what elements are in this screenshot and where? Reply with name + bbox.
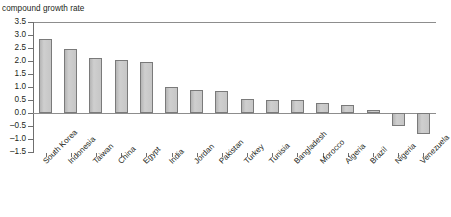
y-tick-label: –0.5 xyxy=(0,122,26,130)
category-label: Turkey xyxy=(243,143,266,166)
y-tick-label-text: –1.0 xyxy=(0,135,26,143)
bar xyxy=(215,91,228,113)
category-label: Egypt xyxy=(142,146,162,166)
y-tick-label: –1.0 xyxy=(0,135,26,143)
y-tick xyxy=(28,74,33,75)
bar xyxy=(39,39,52,113)
bar xyxy=(190,90,203,113)
y-tick xyxy=(28,100,33,101)
y-tick xyxy=(28,126,33,127)
category-label: India xyxy=(168,148,186,166)
y-tick-label: 1.0 xyxy=(0,83,26,91)
y-tick-label-text: 3.0 xyxy=(0,31,26,39)
y-tick xyxy=(28,152,33,153)
category-label: China xyxy=(117,145,137,165)
y-tick-label-text: –1.5 xyxy=(0,148,26,156)
bar xyxy=(115,60,128,113)
y-tick xyxy=(28,35,33,36)
bar xyxy=(89,58,102,113)
y-tick-label-text: 2.5 xyxy=(0,44,26,52)
y-tick-label: 1.5 xyxy=(0,70,26,78)
y-tick-label: 2.0 xyxy=(0,57,26,65)
y-tick xyxy=(28,87,33,88)
y-tick-label-text: 0.0 xyxy=(0,109,26,117)
zero-baseline xyxy=(33,113,436,114)
bar xyxy=(291,100,304,113)
y-tick-label-text: 1.0 xyxy=(0,83,26,91)
bar xyxy=(140,62,153,113)
category-label: Morocco xyxy=(319,138,346,165)
bar xyxy=(392,113,405,126)
bar xyxy=(316,103,329,113)
y-axis-title: compound growth rate xyxy=(2,4,84,13)
y-tick-label-text: 0.5 xyxy=(0,96,26,104)
y-axis-line xyxy=(33,22,34,153)
y-tick xyxy=(28,139,33,140)
y-tick-label-text: –0.5 xyxy=(0,122,26,130)
y-tick-label: –1.5 xyxy=(0,148,26,156)
bar xyxy=(241,99,254,113)
y-tick-label: 3.0 xyxy=(0,31,26,39)
bar xyxy=(341,105,354,113)
category-label: Nigeria xyxy=(394,142,418,166)
category-label: Brazil xyxy=(369,146,389,166)
category-label: Algeria xyxy=(344,142,367,165)
category-label: Pakistan xyxy=(218,138,245,165)
bar xyxy=(367,110,380,113)
y-tick xyxy=(28,48,33,49)
bar xyxy=(64,49,77,113)
bar xyxy=(266,100,279,113)
y-tick-label-text: 3.5 xyxy=(0,18,26,26)
y-tick-label: 2.5 xyxy=(0,44,26,52)
y-tick-label: 0.0 xyxy=(0,109,26,117)
category-label: Venezuela xyxy=(419,134,451,166)
bar xyxy=(165,87,178,113)
y-tick xyxy=(28,61,33,62)
bar xyxy=(417,113,430,134)
y-tick-label-text: 1.5 xyxy=(0,70,26,78)
plot-top-border xyxy=(33,22,436,23)
y-tick-label: 0.5 xyxy=(0,96,26,104)
category-label: Taiwan xyxy=(92,142,115,165)
y-tick-label: 3.5 xyxy=(0,18,26,26)
category-label: Jordan xyxy=(193,143,216,166)
y-tick xyxy=(28,22,33,23)
y-tick-label-text: 2.0 xyxy=(0,57,26,65)
category-label: Tunisia xyxy=(268,142,292,166)
